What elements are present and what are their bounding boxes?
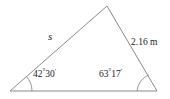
right-angle-arc: [137, 75, 149, 91]
side-label-s: s: [48, 31, 52, 42]
triangle-graphic: [0, 0, 170, 99]
angle-label-left: 42°30′: [33, 70, 56, 80]
angle-left-minute-symbol: ′: [55, 67, 57, 75]
angle-label-right: 63°17′: [99, 70, 122, 80]
left-side-line: [10, 6, 107, 91]
left-angle-arc: [26, 76, 32, 91]
angle-left-minutes: 30: [45, 69, 55, 79]
angle-right-minute-symbol: ′: [121, 67, 123, 75]
angle-right-minutes: 17: [111, 69, 121, 79]
angle-left-degrees: 42: [33, 69, 43, 79]
angle-right-degrees: 63: [99, 69, 109, 79]
side-label-2-16-m: 2.16 m: [131, 38, 157, 48]
triangle-diagram: s 2.16 m 42°30′ 63°17′: [0, 0, 170, 99]
